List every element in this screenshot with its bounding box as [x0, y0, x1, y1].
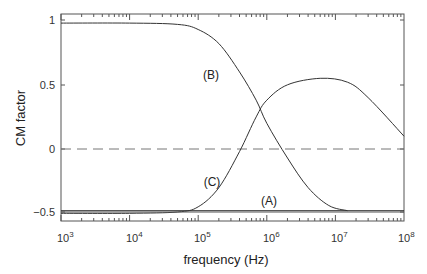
x-tick-1e7: 107 — [331, 230, 348, 244]
y-tick-0.5: 0.5 — [40, 79, 55, 91]
x-tick-labels: 103 104 105 106 107 108 — [57, 230, 415, 244]
y-tick-minus-0.5: −0.5 — [33, 206, 55, 218]
x-axis-title: frequency (Hz) — [183, 252, 268, 267]
x-tick-1e6: 106 — [263, 230, 280, 244]
y-tick-1: 1 — [49, 14, 55, 26]
curve-a-label: (A) — [261, 194, 277, 208]
cm-factor-chart: 1 0.5 0 −0.5 103 104 105 106 107 108 fre… — [0, 0, 427, 274]
curve-c — [61, 78, 404, 213]
curve-b-label: (B) — [203, 68, 219, 82]
x-tick-1e3: 103 — [57, 230, 74, 244]
y-axis-ticks — [61, 20, 404, 212]
x-axis-ticks — [61, 14, 401, 221]
x-tick-1e8: 108 — [398, 230, 415, 244]
y-axis-title: CM factor — [13, 89, 28, 146]
x-tick-1e5: 105 — [194, 230, 211, 244]
x-tick-1e4: 104 — [126, 230, 143, 244]
plot-frame — [61, 14, 404, 221]
y-tick-0: 0 — [49, 143, 55, 155]
curve-c-label: (C) — [204, 175, 221, 189]
